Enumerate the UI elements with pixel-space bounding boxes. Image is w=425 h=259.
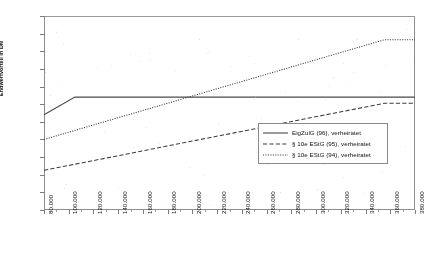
scan-artifact [150, 60, 151, 61]
scan-artifact [96, 67, 97, 68]
scan-artifact [159, 143, 160, 144]
scan-artifact [146, 127, 147, 128]
legend-label-10e-estg-95: § 10e EStG (95), verheiratet [292, 140, 371, 147]
scan-artifact [134, 147, 135, 148]
scan-artifact [153, 104, 154, 105]
scan-artifact [58, 82, 59, 83]
scan-artifact [207, 53, 208, 54]
scan-artifact [139, 61, 140, 62]
legend-item-10e-estg-95: § 10e EStG (95), verheiratet [262, 138, 383, 149]
legend-key-dotted-icon [262, 151, 289, 159]
scan-artifact [50, 95, 51, 96]
series-line-eigzulg-96 [44, 97, 415, 115]
scan-artifact [338, 46, 339, 47]
scan-artifact [63, 44, 64, 45]
scan-artifact [307, 158, 308, 159]
scan-artifact [373, 155, 374, 156]
legend-key-dashed-icon [262, 140, 289, 148]
scan-artifact [149, 53, 150, 54]
scan-artifact [328, 87, 329, 88]
scan-artifact [280, 192, 281, 193]
scan-artifact [407, 29, 408, 30]
scan-artifact [64, 188, 65, 189]
scan-artifact [199, 39, 200, 40]
scan-artifact [326, 56, 327, 57]
legend-item-eigzulg-96: EigZulG (96), verheiratet [262, 127, 383, 138]
scan-artifact [130, 54, 131, 55]
chart-container: Endwertvorteil in DM 010.00020.00030.000… [0, 0, 425, 259]
scan-artifact [317, 189, 318, 190]
scan-artifact [255, 97, 256, 98]
scan-artifact [189, 138, 190, 139]
scan-artifact [45, 72, 46, 73]
scan-artifact [355, 133, 356, 134]
scan-artifact [353, 72, 354, 73]
scan-artifact [357, 39, 358, 40]
scan-artifact [297, 101, 298, 102]
scan-artifact [102, 189, 103, 190]
scan-artifact [363, 192, 364, 193]
scan-artifact [382, 172, 383, 173]
scan-artifact [249, 56, 250, 57]
scan-artifact [57, 30, 58, 31]
legend-label-10e-estg-94: § 10e EStG (94), verheiratet [292, 151, 371, 158]
scan-artifact [307, 130, 308, 131]
scan-artifact [352, 132, 353, 133]
legend-label-eigzulg-96: EigZulG (96), verheiratet [292, 129, 361, 136]
scan-artifact [390, 166, 391, 167]
scan-artifact [209, 205, 210, 206]
scan-artifact [104, 132, 105, 133]
scan-artifact [267, 164, 268, 165]
scan-artifact [81, 60, 82, 61]
scan-artifact [379, 92, 380, 93]
legend-key-solid-icon [262, 129, 289, 137]
scan-artifact [66, 184, 67, 185]
scan-artifact [325, 100, 326, 101]
scan-artifact [409, 58, 410, 59]
scan-artifact [333, 77, 334, 78]
scan-artifact [254, 63, 255, 64]
scan-artifact [258, 142, 259, 143]
scan-artifact [119, 188, 120, 189]
scan-artifact [175, 70, 176, 71]
scan-artifact [189, 167, 190, 168]
scan-artifact [385, 65, 386, 66]
scan-artifact [285, 91, 286, 92]
scan-artifact [343, 63, 344, 64]
chart-legend: EigZulG (96), verheiratet § 10e EStG (95… [258, 123, 388, 164]
scan-artifact [369, 106, 370, 107]
scan-artifact [323, 164, 324, 165]
scan-artifact [298, 39, 299, 40]
scan-artifact [56, 32, 57, 33]
legend-item-10e-estg-94: § 10e EStG (94), verheiratet [262, 149, 383, 160]
scan-artifact [203, 175, 204, 176]
scan-artifact [218, 124, 219, 125]
scan-artifact [405, 146, 406, 147]
scan-artifact [111, 65, 112, 66]
scan-artifact [231, 66, 232, 67]
scan-artifact [209, 51, 210, 52]
scan-artifact [263, 75, 264, 76]
scan-artifact [343, 177, 344, 178]
scan-artifact [68, 135, 69, 136]
scan-artifact [346, 82, 347, 83]
scan-artifact [261, 118, 262, 119]
